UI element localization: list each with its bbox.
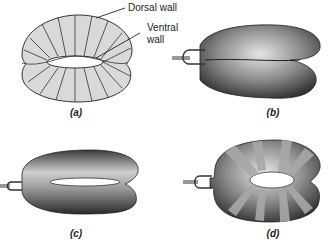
callout-dorsal-wall: Dorsal wall [128, 2, 177, 14]
torus-flat-b [172, 25, 320, 98]
figure-canvas [0, 0, 329, 245]
torus-inflated-c [0, 150, 138, 214]
panel-label-c: (c) [56, 228, 96, 239]
callout-ventral-wall-line2: wall [147, 34, 164, 46]
dorsal-wall-leader [96, 8, 125, 18]
panel-label-d: (d) [253, 228, 293, 239]
panel-label-a: (a) [56, 107, 96, 118]
torus-banded-d [183, 140, 320, 222]
callout-ventral-wall-line1: Ventral [147, 22, 178, 34]
panel-label-b: (b) [253, 107, 293, 118]
torus-segmented-a [22, 8, 140, 102]
